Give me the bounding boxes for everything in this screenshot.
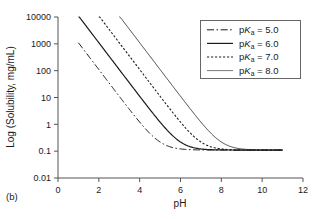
y-axis-ticks: 0.010.1110100100010000 [26, 12, 58, 183]
y-axis-title: Log (Solubility, mg/mL) [5, 46, 16, 148]
legend-suffix: = 8.0 [254, 65, 278, 76]
x-tick-label: 8 [219, 185, 224, 195]
legend-suffix: = 6.0 [254, 38, 278, 49]
legend-suffix: = 5.0 [254, 24, 278, 35]
x-axis-title: pH [174, 198, 187, 209]
y-tick-label: 0.1 [38, 146, 51, 156]
y-tick-label: 1 [46, 120, 51, 130]
solubility-ph-chart: 0.010.1110100100010000 024681012 Log (So… [0, 0, 321, 219]
x-axis-ticks: 024681012 [55, 178, 308, 195]
x-tick-label: 6 [178, 185, 183, 195]
y-tick-label: 10000 [26, 12, 51, 22]
y-tick-label: 100 [36, 66, 51, 76]
legend: pKa = 5.0pKa = 6.0pKa = 7.0pKa = 8.0 [201, 21, 301, 79]
x-tick-label: 4 [137, 185, 142, 195]
y-tick-label: 1000 [31, 39, 51, 49]
x-tick-label: 0 [55, 185, 60, 195]
x-tick-label: 12 [298, 185, 308, 195]
figure-panel: 0.010.1110100100010000 024681012 Log (So… [0, 0, 321, 219]
legend-label: pKa = 7.0 [239, 51, 278, 63]
legend-label: pKa = 8.0 [239, 65, 278, 77]
x-tick-label: 2 [96, 185, 101, 195]
legend-label: pKa = 6.0 [239, 38, 278, 50]
panel-label: (b) [6, 191, 18, 202]
x-tick-label: 10 [257, 185, 267, 195]
legend-suffix: = 7.0 [254, 51, 278, 62]
legend-label: pKa = 5.0 [239, 24, 278, 36]
y-tick-label: 0.01 [33, 173, 51, 183]
y-tick-label: 10 [41, 93, 51, 103]
